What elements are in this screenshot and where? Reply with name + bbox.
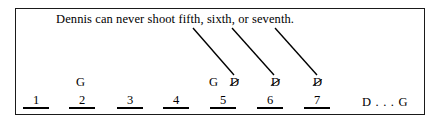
slot-number-label: 6	[257, 94, 283, 107]
slot-number-label: 4	[163, 94, 189, 107]
slot-1[interactable]: 1	[23, 94, 49, 109]
slot-underline	[304, 107, 330, 108]
struck-letter-glyph: D	[230, 76, 239, 89]
struck-letter-glyph: D	[313, 76, 322, 89]
struck-letter-glyph: D	[271, 76, 280, 89]
slot-2[interactable]: 2	[69, 94, 95, 109]
slot-number-label: 3	[117, 94, 143, 107]
slot-3[interactable]: 3	[117, 94, 143, 109]
slot-number-label: 5	[210, 94, 236, 107]
slot-number-label: 2	[69, 94, 95, 107]
sequence-note: D . . . G	[362, 95, 408, 110]
marker-slot5-g: G	[209, 76, 218, 89]
constraint-statement: Dennis can never shoot fifth, sixth, or …	[56, 13, 294, 27]
slot-underline	[257, 107, 283, 108]
letter-glyph: G	[76, 75, 85, 89]
slot-6[interactable]: 6	[257, 94, 283, 109]
slot-underline	[117, 107, 143, 108]
marker-slot5-d: D	[230, 76, 239, 89]
logic-game-diagram: Dennis can never shoot fifth, sixth, or …	[0, 0, 441, 125]
slot-4[interactable]: 4	[163, 94, 189, 109]
marker-slot6-d: D	[271, 76, 280, 89]
slot-underline	[210, 107, 236, 108]
marker-slot7-d: D	[313, 76, 322, 89]
slot-underline	[69, 107, 95, 108]
slot-7[interactable]: 7	[304, 94, 330, 109]
slot-underline	[163, 107, 189, 108]
slot-5[interactable]: 5	[210, 94, 236, 109]
slot-number-label: 7	[304, 94, 330, 107]
slot-underline	[23, 107, 49, 108]
letter-glyph: G	[209, 75, 218, 89]
marker-slot2-g: G	[76, 76, 85, 89]
slot-number-label: 1	[23, 94, 49, 107]
